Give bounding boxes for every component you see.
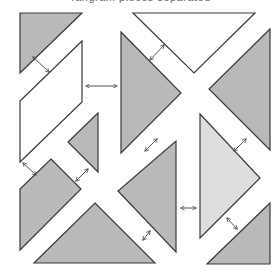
arrow-triangle-parallelogram-double-arrow-icon bbox=[33, 57, 49, 72]
right-light-triangle-piece bbox=[200, 114, 260, 238]
arrow-right-triangle-light-double-arrow-icon bbox=[234, 139, 246, 151]
arrow-large-triangle-center-double-arrow-icon bbox=[145, 139, 157, 151]
arrow-light-bottom-right-double-arrow-icon bbox=[227, 218, 237, 229]
arrow-small-triangle-square-double-arrow-icon bbox=[76, 169, 88, 181]
small-middle-triangle-piece bbox=[68, 113, 98, 172]
arrow-center-bottom-double-arrow-icon bbox=[143, 231, 150, 240]
arrow-large-triangle-top-triangle-double-arrow-icon bbox=[150, 45, 164, 60]
tangram-pieces bbox=[20, 13, 270, 264]
tangram-diagram bbox=[0, 0, 280, 277]
arrow-parallelogram-square-double-arrow-icon bbox=[23, 163, 36, 175]
